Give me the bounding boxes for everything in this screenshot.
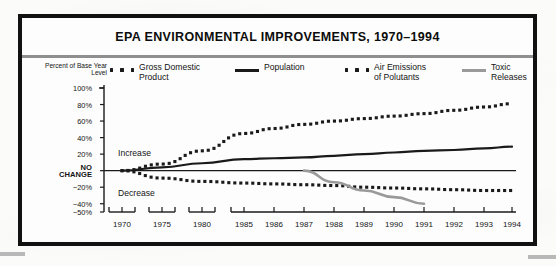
series-air-emissions-of-polutants	[120, 169, 512, 192]
series-gross-domestic-product	[120, 102, 508, 172]
plot-area: 100%80%60%40%20%NOCHANGE−20%−40%−50% 197…	[22, 18, 533, 242]
page-corner-mark-right	[528, 255, 556, 259]
chart-canvas	[22, 18, 533, 242]
series-toxic-releases	[304, 171, 424, 204]
page-corner-mark-left	[0, 252, 25, 256]
figure-frame: EPA ENVIRONMENTAL IMPROVEMENTS, 1970–199…	[18, 14, 537, 246]
